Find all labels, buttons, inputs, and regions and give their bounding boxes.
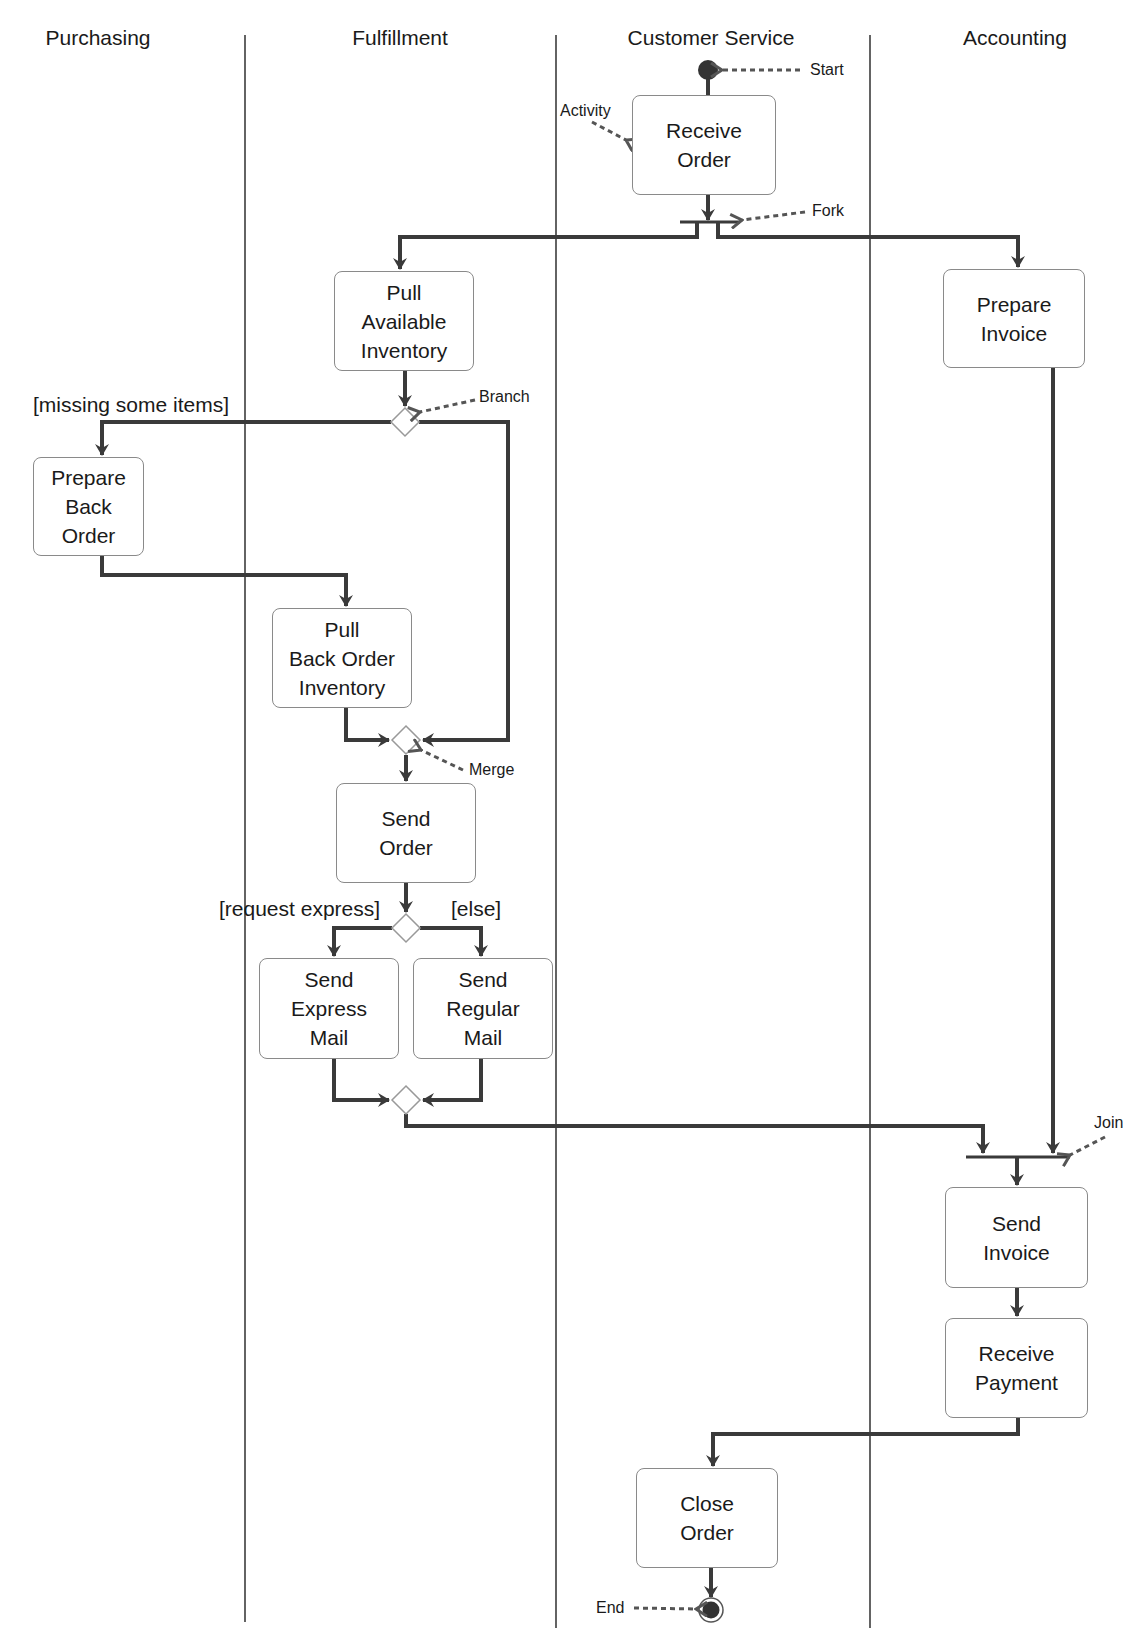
end-annotation-arrow [634,1608,696,1609]
activity-send-order[interactable]: Send Order [336,783,476,883]
activity-send-invoice[interactable]: Send Invoice [945,1187,1088,1288]
activity-pull-available-inventory[interactable]: Pull Available Inventory [334,271,474,371]
merge-diamond [392,726,420,754]
activity-annotation-arrow [592,122,626,140]
guard-request-express: [request express] [219,897,380,921]
start-node [698,60,718,80]
annotation-join: Join [1094,1114,1123,1132]
guard-else: [else] [451,897,501,921]
annotation-fork: Fork [812,202,844,220]
activity-receive-order[interactable]: Receive Order [632,95,776,195]
annotation-start: Start [810,61,844,79]
branch-annotation-arrow [420,400,475,412]
activity-close-order[interactable]: Close Order [636,1468,778,1568]
join-annotation-arrow [1070,1137,1105,1155]
annotation-branch: Branch [479,388,530,406]
activity-prepare-back-order[interactable]: Prepare Back Order [33,457,144,556]
branch-diamond [391,408,419,436]
annotation-merge: Merge [469,761,514,779]
activity-prepare-invoice[interactable]: Prepare Invoice [943,269,1085,368]
decision-diamond [392,914,420,942]
activity-receive-payment[interactable]: Receive Payment [945,1318,1088,1418]
annotation-activity: Activity [560,102,611,120]
merge2-diamond [392,1086,420,1114]
fork-annotation-arrow [742,212,805,220]
activity-send-express-mail[interactable]: Send Express Mail [259,958,399,1059]
annotation-end: End [596,1599,624,1617]
merge-annotation-arrow [421,750,463,770]
activity-send-regular-mail[interactable]: Send Regular Mail [413,958,553,1059]
guard-missing-some-items: [missing some items] [33,393,229,417]
end-node [699,1598,723,1622]
activity-pull-back-order-inventory[interactable]: Pull Back Order Inventory [272,608,412,708]
